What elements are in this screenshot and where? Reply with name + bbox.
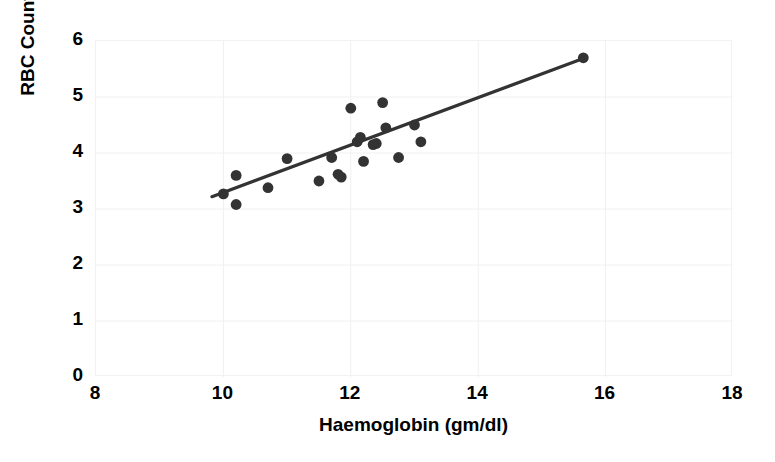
trendline: [212, 58, 585, 197]
data-point: [380, 122, 391, 133]
x-axis-title: Haemoglobin (gm/dl): [95, 414, 732, 436]
data-point: [263, 182, 274, 193]
data-point: [393, 152, 404, 163]
data-point: [409, 120, 420, 131]
data-point: [231, 170, 242, 181]
data-point: [371, 138, 382, 149]
x-tick-label: 14: [457, 382, 497, 404]
x-tick-label: 8: [75, 382, 115, 404]
y-axis-title: RBC Count: [8, 0, 48, 230]
y-tick-label: 5: [43, 84, 83, 106]
y-tick-label: 3: [43, 196, 83, 218]
y-tick-label: 4: [43, 140, 83, 162]
data-point: [326, 152, 337, 163]
horizontal-gridlines: [96, 97, 733, 321]
data-point: [231, 199, 242, 210]
x-tick-label: 18: [712, 382, 752, 404]
plot-area: [95, 40, 732, 376]
y-tick-label: 6: [43, 28, 83, 50]
plot-canvas: [96, 41, 733, 377]
data-point: [314, 176, 325, 187]
y-tick-label: 1: [43, 308, 83, 330]
data-point: [345, 103, 356, 114]
x-tick-label: 12: [330, 382, 370, 404]
x-tick-label: 16: [585, 382, 625, 404]
data-point: [377, 97, 388, 108]
trendline-segment: [212, 58, 585, 197]
data-point: [415, 136, 426, 147]
data-point: [578, 52, 589, 63]
x-tick-label: 10: [202, 382, 242, 404]
data-point: [355, 132, 366, 143]
scatter-chart: RBC Count Haemoglobin (gm/dl) 6543210 81…: [0, 0, 775, 462]
y-tick-label: 2: [43, 252, 83, 274]
data-point: [358, 156, 369, 167]
data-point: [282, 153, 293, 164]
data-point: [336, 172, 347, 183]
data-point: [218, 188, 229, 199]
